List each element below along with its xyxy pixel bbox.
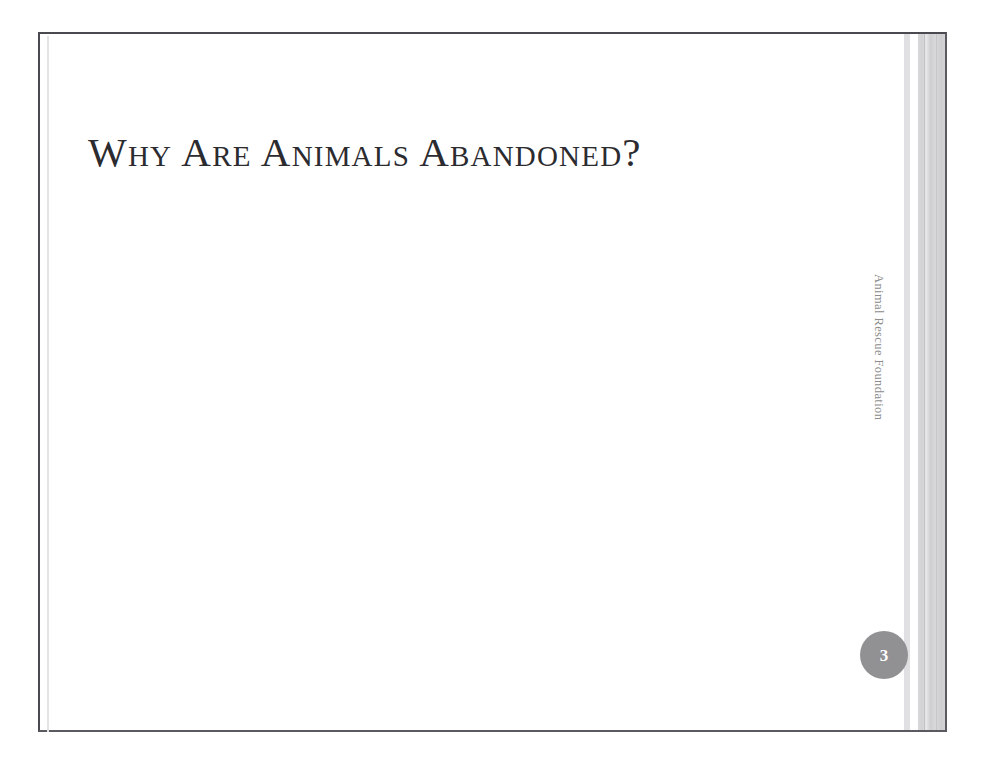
right-stripe-hairline-a <box>924 34 925 730</box>
slide-body-content <box>88 224 878 604</box>
page-number-text: 3 <box>880 647 889 664</box>
slide-frame: Why Are Animals Abandoned? Animal Rescue… <box>38 32 947 732</box>
page-number-badge: 3 <box>860 631 908 679</box>
left-accent-line <box>47 36 49 732</box>
right-stripe-hairline-b <box>936 34 937 730</box>
right-stripe-gap <box>910 34 918 730</box>
page-canvas: Why Are Animals Abandoned? Animal Rescue… <box>0 0 983 773</box>
slide-title: Why Are Animals Abandoned? <box>88 132 642 173</box>
right-stripe-wide <box>918 34 945 730</box>
side-label-vertical-text: Animal Rescue Foundation <box>873 274 886 290</box>
